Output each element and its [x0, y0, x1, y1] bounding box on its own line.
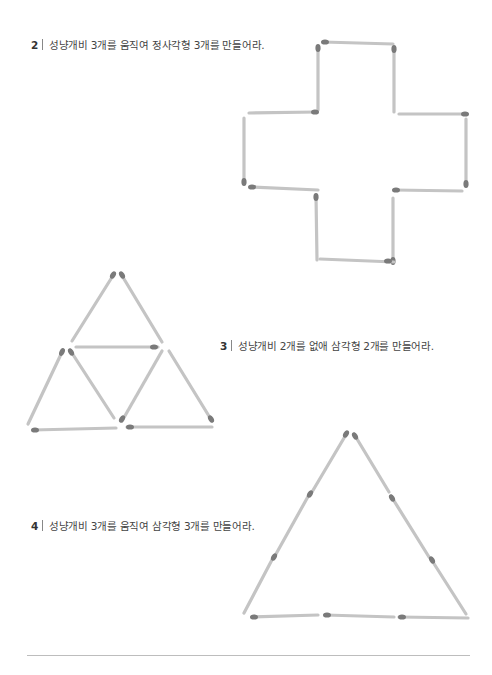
triangle-grid-matchsticks — [28, 270, 215, 432]
cross-matchsticks — [241, 39, 469, 265]
cross-figure: .stick { stroke: #c4c4c4; stroke-width: … — [0, 0, 492, 675]
big-triangle-matchsticks — [244, 429, 468, 619]
footer-divider — [27, 655, 470, 656]
